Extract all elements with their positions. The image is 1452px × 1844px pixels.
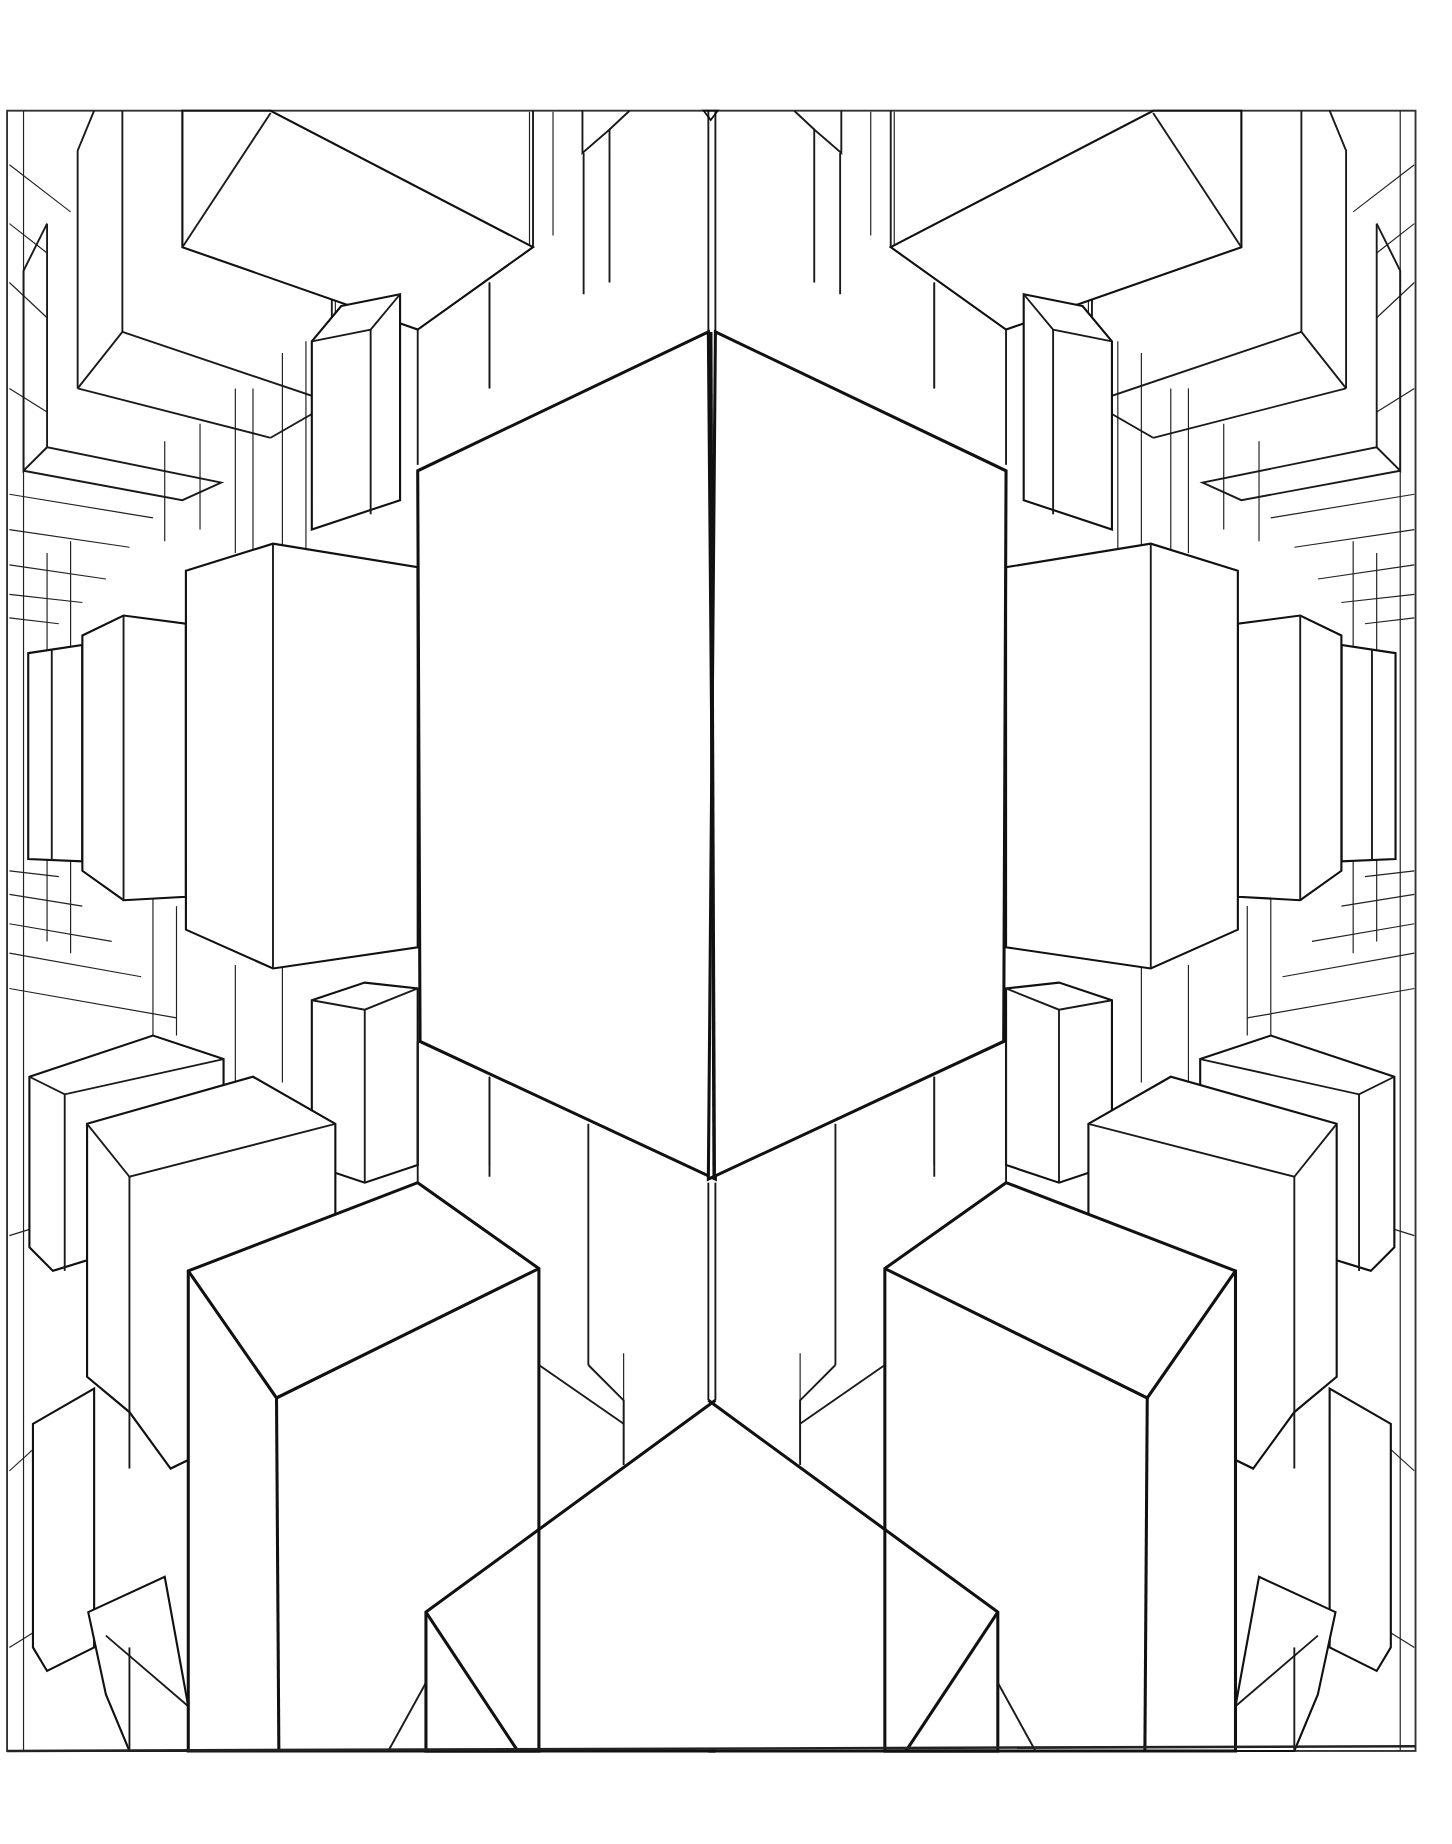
- right-half-boxes-mirrored: [708, 111, 1414, 1751]
- left-half-boxes: [9, 111, 715, 1751]
- coloring-page: [0, 0, 1452, 1844]
